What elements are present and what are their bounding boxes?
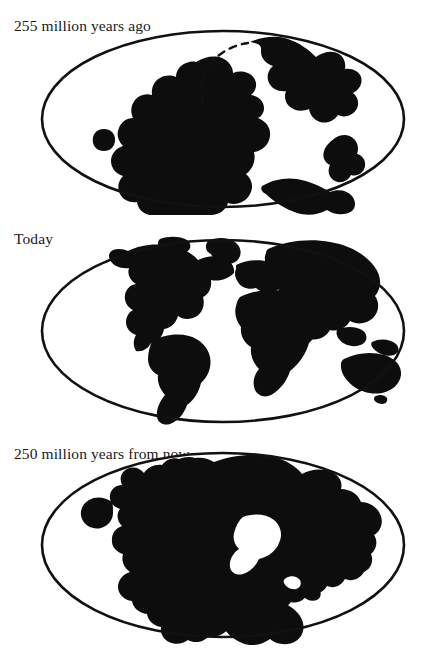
continental-drift-figure: 255 million years ago Today [0, 0, 437, 649]
panel-today: Today [0, 215, 437, 430]
panel-past: 255 million years ago [0, 0, 437, 215]
panel-future: 250 million years from now [0, 430, 437, 649]
landmass-tasmania [374, 395, 387, 404]
globe-map-future [0, 448, 437, 649]
globe-map-past [0, 26, 437, 215]
globe-map-today [0, 235, 437, 430]
landmass-west-peninsula [93, 129, 115, 151]
